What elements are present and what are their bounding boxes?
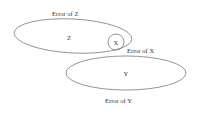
venn-diagram: Error of Z Z X Error of X Y Error of Y bbox=[0, 0, 204, 115]
label-z: Z bbox=[67, 34, 71, 41]
label-error-of-x: Error of X bbox=[127, 47, 154, 54]
label-y: Y bbox=[124, 70, 129, 77]
label-x: X bbox=[114, 39, 119, 46]
label-error-of-z: Error of Z bbox=[52, 10, 78, 17]
label-error-of-y: Error of Y bbox=[105, 97, 132, 104]
